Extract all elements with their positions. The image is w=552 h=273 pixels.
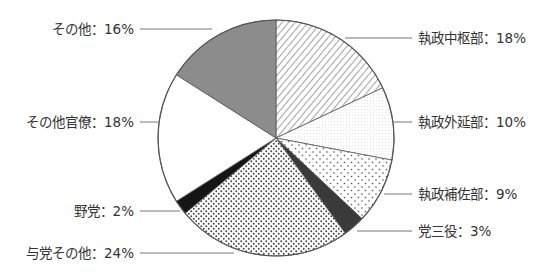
label-yoto-sonota: 与党その他：24% xyxy=(26,245,134,261)
label-tou-sanyaku: 党三役：3% xyxy=(418,223,492,239)
pie-slices xyxy=(158,20,394,256)
label-sonota-kanryo: その他官僚：18% xyxy=(26,114,134,130)
label-shisei-hosa: 執政補佐部：9% xyxy=(418,186,518,202)
label-sonota: その他：16% xyxy=(52,21,134,37)
label-shisei-chusu: 執政中枢部：18% xyxy=(418,30,526,46)
label-yato: 野党：2% xyxy=(74,203,135,219)
pie-chart: その他：16% その他官僚：18% 野党：2% 与党その他：24% 執政中枢部：… xyxy=(0,0,552,273)
label-shisei-gaien: 執政外延部：10% xyxy=(418,114,526,130)
